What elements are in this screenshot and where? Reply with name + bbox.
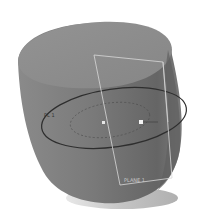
model-viewport[interactable]: PL 1 PLANE 1 xyxy=(0,0,204,224)
radius-point[interactable] xyxy=(139,120,143,124)
center-point[interactable] xyxy=(102,121,105,124)
sketch-label: PL 1 xyxy=(44,112,55,118)
plane-label: PLANE 1 xyxy=(124,177,145,183)
model-canvas[interactable]: PL 1 PLANE 1 xyxy=(0,0,204,224)
